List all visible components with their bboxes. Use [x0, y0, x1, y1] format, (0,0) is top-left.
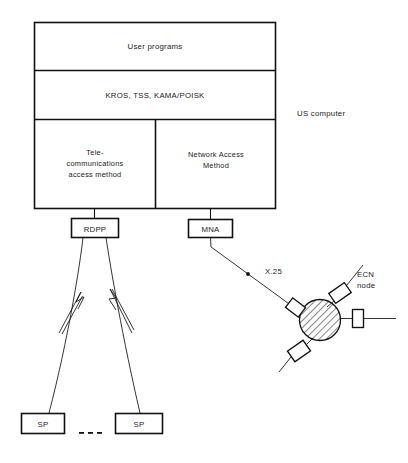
sp-ellipsis [79, 432, 102, 434]
sp-left-box: SP [22, 414, 65, 434]
ecn-port-right [341, 310, 397, 328]
mna-label: MNA [201, 225, 220, 234]
link-mna-to-ecn-node [211, 238, 297, 310]
network-architecture-diagram: User programs KROS, TSS, KAMA/POISK Tele… [0, 0, 408, 463]
svg-text:Method: Method [203, 161, 229, 170]
sp-left-label: SP [38, 420, 49, 429]
ecn-node-label: ECN node [357, 270, 375, 290]
rdpp-box: RDPP [72, 219, 119, 238]
us-computer-label: US computer [297, 109, 345, 118]
link-rdpp-to-sp-left [49, 238, 83, 414]
mna-box: MNA [189, 220, 233, 238]
svg-text:communications: communications [67, 159, 124, 168]
svg-text:node: node [357, 281, 375, 290]
diagram-canvas: User programs KROS, TSS, KAMA/POISK Tele… [0, 0, 408, 463]
svg-text:Network Access: Network Access [188, 150, 244, 159]
sp-right-label: SP [134, 420, 145, 429]
svg-text:access method: access method [69, 170, 122, 179]
ecn-port-lower-left [279, 338, 313, 372]
layer-label-operating-systems: KROS, TSS, KAMA/POISK [105, 91, 205, 100]
rdpp-label: RDPP [84, 225, 107, 234]
link-rdpp-to-sp-right [106, 238, 140, 414]
svg-text:ECN: ECN [357, 270, 374, 279]
sp-right-box: SP [116, 414, 163, 434]
x25-junction-dot [246, 272, 250, 276]
ecn-node-circle [300, 300, 341, 341]
svg-text:Tele-: Tele- [86, 148, 104, 157]
layer-label-user-programs: User programs [128, 42, 183, 51]
x25-label: X.25 [265, 267, 282, 276]
